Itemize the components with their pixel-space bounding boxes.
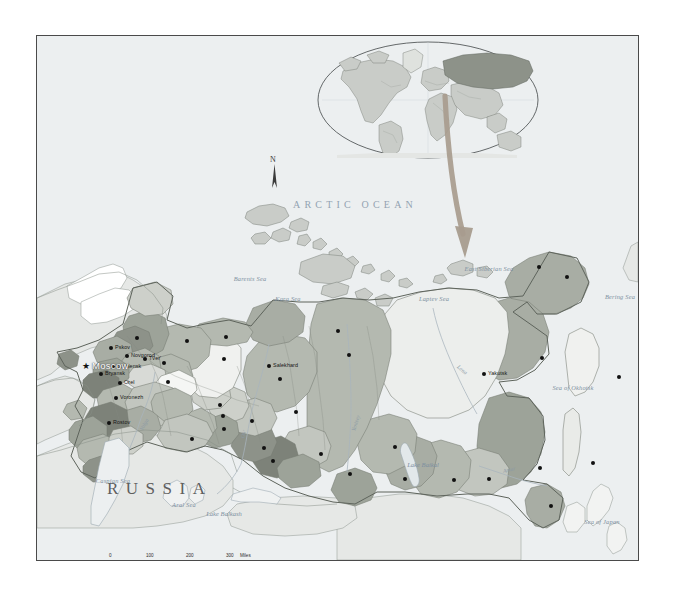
- city-dot-icon: [222, 357, 226, 361]
- scale-miles-tick-1: 100: [146, 553, 154, 558]
- scale-bar: 0 100 200 300 Miles 0 100 200 300 Kilome…: [107, 553, 287, 561]
- city-dot-icon: [540, 356, 544, 360]
- city-dot-icon: [135, 336, 139, 340]
- capital-label-moscow: Moscow: [92, 360, 129, 371]
- city-dot-icon: [107, 421, 111, 425]
- north-arrow: N: [267, 155, 283, 189]
- city-dot-icon: [319, 452, 323, 456]
- scale-miles-tick-2: 200: [186, 553, 194, 558]
- city-dot-icon: [538, 466, 542, 470]
- city-dot-icon: [591, 461, 595, 465]
- city-dot-icon: [218, 403, 222, 407]
- city-dot-icon: [452, 478, 456, 482]
- city-dot-icon: [221, 414, 225, 418]
- inset-world-map: [318, 42, 538, 158]
- city-dot-icon: [190, 437, 194, 441]
- city-dot-icon: [250, 419, 254, 423]
- city-dot-icon: [294, 410, 298, 414]
- north-arrow-label: N: [270, 155, 276, 164]
- city-dot-icon: [125, 354, 129, 358]
- map-page: N ARCTIC OCEAN RUSSIA Barents SeaKara Se…: [0, 0, 673, 593]
- city-dot-icon: [565, 275, 569, 279]
- city-dot-icon: [278, 377, 282, 381]
- city-dot-icon: [487, 477, 491, 481]
- city-dot-icon: [482, 372, 486, 376]
- city-dot-icon: [393, 445, 397, 449]
- city-dot-icon: [162, 361, 166, 365]
- city-dot-icon: [166, 380, 170, 384]
- city-dot-icon: [222, 427, 226, 431]
- city-dot-icon: [118, 381, 122, 385]
- scale-miles-tick-3: 300: [226, 553, 234, 558]
- city-dot-icon: [143, 357, 147, 361]
- city-dot-icon: [336, 329, 340, 333]
- city-dot-icon: [271, 459, 275, 463]
- scale-miles-tick-0: 0: [109, 553, 112, 558]
- city-dot-icon: [109, 346, 113, 350]
- city-dot-icon: [403, 477, 407, 481]
- city-dot-icon: [224, 335, 228, 339]
- city-dot-icon: [267, 364, 271, 368]
- city-dot-icon: [347, 353, 351, 357]
- city-dot-icon: [348, 472, 352, 476]
- map-frame: N ARCTIC OCEAN RUSSIA Barents SeaKara Se…: [36, 35, 639, 561]
- page-title: RUSSIA: [107, 479, 212, 499]
- city-dot-icon: [617, 375, 621, 379]
- city-dot-icon: [262, 446, 266, 450]
- city-dot-icon: [99, 372, 103, 376]
- city-dot-icon: [185, 339, 189, 343]
- scale-miles-unit: Miles: [240, 553, 251, 558]
- capital-star-icon: ★: [82, 362, 90, 371]
- city-dot-icon: [537, 265, 541, 269]
- city-dot-icon: [549, 504, 553, 508]
- city-dot-icon: [114, 396, 118, 400]
